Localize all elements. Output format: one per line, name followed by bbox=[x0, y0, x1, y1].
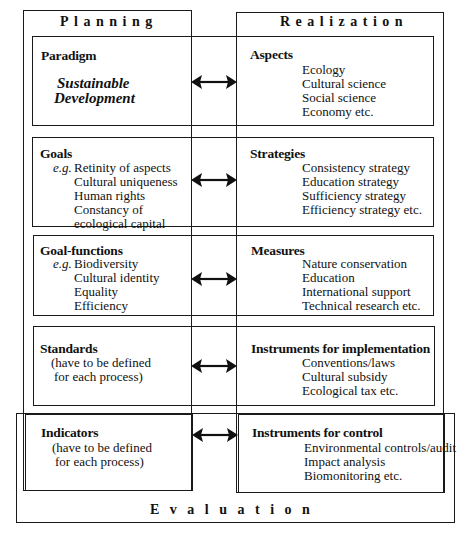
goal-functions-list: Biodiversity Cultural identity Equality … bbox=[74, 257, 160, 313]
planning-title: Planning bbox=[60, 14, 158, 30]
list-item: Cultural uniqueness bbox=[74, 175, 178, 189]
double-arrow-icon bbox=[191, 173, 237, 187]
list-item: Ecology bbox=[302, 63, 386, 77]
measures-list: Nature conservation Education Internatio… bbox=[302, 257, 421, 313]
strategies-heading: Strategies bbox=[250, 146, 305, 162]
aspects-heading: Aspects bbox=[250, 47, 293, 63]
list-item: Efficiency bbox=[74, 299, 160, 313]
list-item: Consistency strategy bbox=[302, 161, 422, 175]
list-item: Cultural science bbox=[302, 77, 386, 91]
list-item: Technical research etc. bbox=[302, 299, 421, 313]
list-item: Economy etc. bbox=[302, 105, 386, 119]
list-item: Ecological tax etc. bbox=[302, 384, 398, 398]
goal-functions-eg-prefix: e.g. bbox=[53, 257, 72, 271]
list-item: Nature conservation bbox=[302, 257, 421, 271]
list-item: International support bbox=[302, 285, 421, 299]
strategies-list: Consistency strategy Education strategy … bbox=[302, 161, 422, 217]
evaluation-title: Evaluation bbox=[150, 502, 320, 518]
double-arrow-icon bbox=[191, 272, 237, 286]
list-item: Biomonitoring etc. bbox=[304, 469, 456, 483]
list-item: Constancy of bbox=[74, 203, 178, 217]
note-line: for each process) bbox=[52, 455, 152, 469]
paradigm-emphasis-line-2: Development bbox=[54, 91, 135, 106]
list-item: Retinity of aspects bbox=[74, 161, 178, 175]
indicators-heading: Indicators bbox=[41, 425, 98, 441]
list-item: Impact analysis bbox=[304, 455, 456, 469]
measures-heading: Measures bbox=[251, 243, 305, 259]
list-item: Education strategy bbox=[302, 175, 422, 189]
paradigm-emphasis-line-1: Sustainable bbox=[57, 76, 130, 91]
goals-eg-prefix: e.g. bbox=[53, 161, 72, 175]
standards-note: (have to be defined for each process) bbox=[51, 356, 151, 384]
instruments-control-list: Environmental controls/audit Impact anal… bbox=[304, 441, 456, 483]
list-item: Education bbox=[302, 271, 421, 285]
list-item: Efficiency strategy etc. bbox=[302, 203, 422, 217]
list-item: Biodiversity bbox=[74, 257, 160, 271]
realization-title: Realization bbox=[280, 14, 408, 30]
double-arrow-icon bbox=[191, 359, 237, 373]
list-item: Human rights bbox=[74, 189, 178, 203]
list-item: Equality bbox=[74, 285, 160, 299]
note-line: for each process) bbox=[51, 370, 151, 384]
note-line: (have to be defined bbox=[51, 356, 151, 370]
list-item: Cultural identity bbox=[74, 271, 160, 285]
list-item: Cultural subsidy bbox=[302, 370, 398, 384]
instruments-control-heading: Instruments for control bbox=[252, 425, 383, 441]
note-line: (have to be defined bbox=[52, 441, 152, 455]
double-arrow-icon bbox=[191, 75, 237, 89]
list-item: Conventions/laws bbox=[302, 356, 398, 370]
list-item: Social science bbox=[302, 91, 386, 105]
list-item: Sufficiency strategy bbox=[302, 189, 422, 203]
double-arrow-icon bbox=[192, 428, 238, 442]
indicators-note: (have to be defined for each process) bbox=[52, 441, 152, 469]
list-item: ecological capital bbox=[74, 217, 178, 231]
goals-list: Retinity of aspects Cultural uniqueness … bbox=[74, 161, 178, 231]
instruments-implementation-list: Conventions/laws Cultural subsidy Ecolog… bbox=[302, 356, 398, 398]
aspects-list: Ecology Cultural science Social science … bbox=[302, 63, 386, 119]
list-item: Environmental controls/audit bbox=[304, 441, 456, 455]
paradigm-heading: Paradigm bbox=[41, 48, 96, 64]
